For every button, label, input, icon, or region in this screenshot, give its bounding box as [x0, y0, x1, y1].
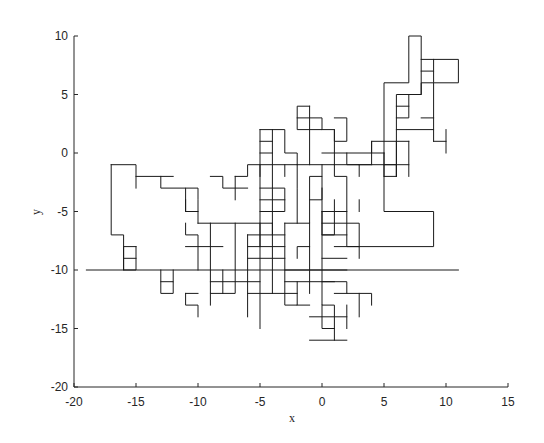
axes: [74, 36, 508, 387]
walk-segment: [111, 165, 123, 270]
walk-segment: [186, 188, 198, 223]
y-tick-label: 0: [61, 146, 68, 160]
walk-segment: [322, 130, 334, 165]
chart-canvas: -20-15-10-5051015 -20-15-10-50510 x y: [0, 0, 544, 443]
x-tick-label: -5: [255, 395, 266, 409]
walk-segment: [322, 200, 334, 235]
walk-segment: [347, 153, 359, 176]
walk-segment: [322, 141, 409, 153]
y-axis-label: y: [29, 209, 43, 215]
walk-segment: [421, 83, 433, 130]
y-tick-label: -20: [51, 380, 69, 394]
x-tick-label: -15: [127, 395, 145, 409]
walk-segment: [186, 200, 198, 212]
walk-segment: [235, 165, 371, 177]
x-tick-label: 5: [381, 395, 388, 409]
walk-segment: [334, 118, 346, 141]
walk-segment: [285, 223, 297, 305]
y-tick-label: -5: [57, 205, 68, 219]
walk-segment: [161, 270, 173, 293]
x-tick-label: 0: [319, 395, 326, 409]
walk-segment: [285, 176, 322, 223]
walk-segment: [396, 130, 433, 142]
random-walk-path: [86, 36, 458, 340]
walk-segment: [260, 130, 297, 165]
x-tick-label: 15: [501, 395, 515, 409]
y-tick-label: -10: [51, 263, 69, 277]
walk-segment: [322, 188, 334, 340]
walk-segment: [186, 293, 198, 316]
walk-segment: [161, 176, 186, 211]
y-tick-label: 10: [55, 29, 69, 43]
y-tick-label: 5: [61, 88, 68, 102]
x-axis-label: x: [289, 411, 295, 425]
x-tick-label: -10: [189, 395, 207, 409]
x-tick-label: 10: [439, 395, 453, 409]
walk-segment: [111, 165, 136, 188]
y-tick-label: -15: [51, 322, 69, 336]
walk-segment: [297, 247, 309, 259]
x-tick-label: -20: [65, 395, 83, 409]
walk-segment: [421, 59, 458, 82]
walk-segment: [210, 176, 247, 188]
